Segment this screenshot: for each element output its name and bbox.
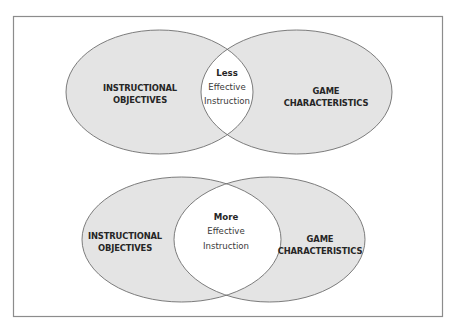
overlap-instruction: Instruction	[204, 96, 250, 106]
overlap-qualifier: More	[214, 212, 239, 222]
overlap-instruction: Instruction	[203, 241, 249, 251]
overlap-effective: Effective	[208, 82, 246, 92]
label-instructional: INSTRUCTIONAL	[103, 83, 178, 93]
overlap-qualifier: Less	[216, 68, 238, 78]
label-characteristics: CHARACTERISTICS	[278, 246, 363, 256]
label-instructional: INSTRUCTIONAL	[88, 231, 163, 241]
label-characteristics: CHARACTERISTICS	[284, 98, 369, 108]
venn-diagram-less: INSTRUCTIONAL OBJECTIVES GAME CHARACTERI…	[66, 30, 392, 154]
venn-figure: INSTRUCTIONAL OBJECTIVES GAME CHARACTERI…	[0, 0, 454, 322]
overlap-effective: Effective	[207, 226, 245, 236]
label-objectives: OBJECTIVES	[113, 95, 167, 105]
label-game: GAME	[307, 234, 334, 244]
label-objectives: OBJECTIVES	[98, 243, 152, 253]
label-game: GAME	[313, 86, 340, 96]
venn-diagram-more: INSTRUCTIONAL OBJECTIVES GAME CHARACTERI…	[82, 177, 365, 302]
